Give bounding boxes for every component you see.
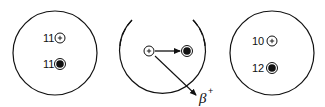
neutron-count: 11	[43, 58, 54, 70]
nucleus-boundary-dashed-right	[193, 20, 205, 46]
diagram-canvas: 11 11 β + 10	[0, 0, 325, 107]
proton-plus-icon	[267, 36, 277, 46]
nucleus-after: 10 12	[230, 11, 314, 95]
emission-arrow	[155, 56, 196, 95]
nucleus-boundary-solid	[119, 20, 205, 93]
neutron-filled-icon	[267, 63, 278, 74]
nucleus-boundary	[13, 11, 97, 95]
neutron-filled-icon	[182, 46, 193, 57]
neutron-count: 12	[252, 62, 264, 74]
nucleus-boundary-dashed-left	[120, 20, 132, 46]
nucleus-boundary	[230, 11, 314, 95]
proton-plus-icon	[144, 46, 154, 56]
beta-plus-superscript: +	[208, 86, 213, 96]
beta-plus-label: β	[198, 90, 207, 106]
proton-plus-icon	[55, 33, 65, 43]
beta-plus-decay-diagram: 11 11 β + 10	[0, 0, 325, 107]
proton-count: 11	[43, 32, 54, 44]
nucleus-transition: β +	[119, 20, 213, 106]
nucleus-before: 11 11	[13, 11, 97, 95]
proton-count: 10	[252, 35, 264, 47]
neutron-filled-icon	[55, 59, 66, 70]
